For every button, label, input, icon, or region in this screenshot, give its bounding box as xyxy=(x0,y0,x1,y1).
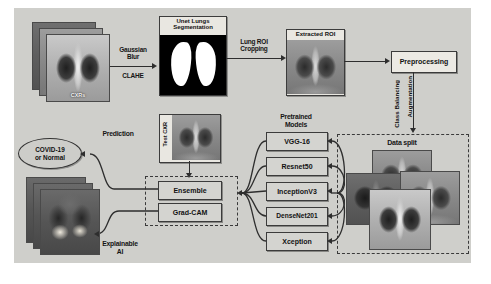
extracted-roi-caption: Extracted ROI xyxy=(287,30,344,38)
arrow-head-model-resnet xyxy=(327,163,332,169)
arrow-head-to-explainable-output xyxy=(94,231,99,237)
prediction-output-text: COVID-19 or Normal xyxy=(35,146,65,160)
edge-roi-to-preprocessing xyxy=(344,61,386,62)
prediction-output-node: COVID-19 or Normal xyxy=(18,138,82,169)
test-cxr-caption: Test CXR xyxy=(162,122,168,146)
arrow-head-to-prediction xyxy=(80,151,85,157)
unet-mask-body xyxy=(160,35,226,95)
edge-preprocessing-to-datasplit xyxy=(413,72,414,130)
extracted-roi-body xyxy=(287,40,344,95)
model-node-xception: Xception xyxy=(266,232,328,251)
ensemble-node: Ensemble xyxy=(158,181,222,200)
test-cxr-box: Test CXR xyxy=(159,114,221,163)
arrow-head-model-inception xyxy=(327,188,332,194)
arrow-head-to-datasplit xyxy=(410,128,416,133)
edge-label-prediction: Prediction xyxy=(92,130,144,138)
model-node-vgg-16: VGG-16 xyxy=(266,132,328,151)
data-split-image-4 xyxy=(369,189,431,250)
xray-image xyxy=(370,190,430,249)
edge-label-lung-roi-cropping: Lung ROI Cropping xyxy=(226,38,282,53)
xray-image xyxy=(172,115,220,160)
unet-segmentation-caption: Unet Lungs Segmentation xyxy=(160,17,226,32)
arrow-head-to-segmentation xyxy=(152,63,157,69)
edge-input-to-segmentation xyxy=(110,66,153,67)
input-cxr-stack-front: CXRs xyxy=(46,34,110,102)
pretrained-models-heading: Pretrained Models xyxy=(263,113,329,128)
edge-label-class-balancing: Class Balancing xyxy=(393,80,400,128)
edge-label-gaussian-blur: Gaussian Blur xyxy=(111,46,155,61)
edge-label-clahe: CLAHE xyxy=(111,72,155,79)
arrow-head-model-densenet xyxy=(327,213,332,219)
model-node-resnet50: Resnet50 xyxy=(266,157,328,176)
gradcam-node: Grad-CAM xyxy=(158,203,222,222)
lung-mask-image xyxy=(160,35,226,95)
pipeline-figure: CXRs Gaussian Blur CLAHE Unet Lungs Segm… xyxy=(14,8,471,263)
edge-label-explainable-ai: Explainable AI xyxy=(90,240,150,255)
edge-label-augmentation: Augmentation xyxy=(406,76,413,118)
arrow-head-to-preprocessing xyxy=(385,58,390,64)
test-cxr-body xyxy=(160,115,220,160)
edge-segmentation-to-roi xyxy=(226,58,282,59)
input-cxr-caption: CXRs xyxy=(47,92,109,98)
preprocessing-node: Preprocessing xyxy=(391,51,457,73)
model-node-densenet201: DenseNet201 xyxy=(266,207,328,226)
lung-mask-left xyxy=(169,42,191,87)
data-split-caption: Data split xyxy=(337,139,467,147)
model-node-inceptionv3: InceptionV3 xyxy=(266,182,328,201)
lung-mask-right xyxy=(195,42,217,87)
unet-segmentation-box: Unet Lungs Segmentation xyxy=(159,16,227,96)
extracted-roi-box: Extracted ROI xyxy=(286,29,345,96)
arrow-head-model-vgg xyxy=(327,138,332,144)
xray-image xyxy=(287,40,344,94)
arrow-head-model-xception xyxy=(327,238,332,244)
